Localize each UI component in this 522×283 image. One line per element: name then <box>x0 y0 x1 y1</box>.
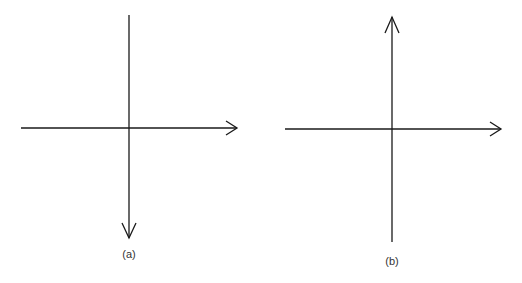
figure-a-caption: (a) <box>122 248 135 260</box>
axes-diagram <box>0 0 522 283</box>
figure-b-caption: (b) <box>385 255 398 267</box>
figure-b <box>285 17 501 242</box>
figure-a <box>21 15 237 238</box>
